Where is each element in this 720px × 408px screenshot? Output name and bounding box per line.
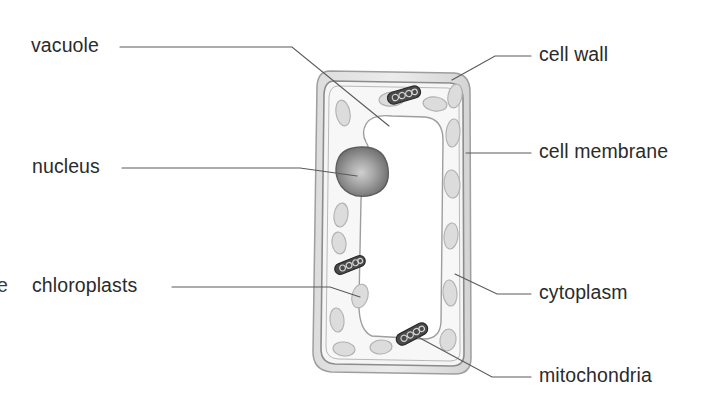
label-chloroplasts: chloroplasts bbox=[32, 276, 137, 296]
label-cell-membrane: cell membrane bbox=[539, 142, 668, 162]
plant-cell-diagram: e bbox=[0, 0, 720, 408]
diagram-canvas bbox=[0, 0, 720, 408]
nucleus-shape bbox=[336, 147, 388, 196]
label-mitochondria: mitochondria bbox=[539, 366, 652, 386]
label-nucleus: nucleus bbox=[32, 157, 100, 177]
label-cytoplasm: cytoplasm bbox=[539, 283, 628, 303]
label-vacuole: vacuole bbox=[31, 36, 99, 56]
label-cell-wall: cell wall bbox=[539, 45, 608, 65]
